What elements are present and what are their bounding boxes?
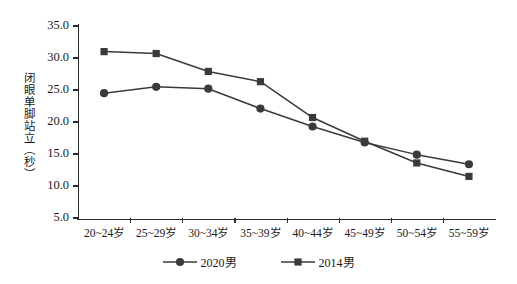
legend-square-icon — [281, 256, 315, 268]
data-point-square — [465, 173, 472, 180]
data-point-square — [413, 159, 420, 166]
line-chart: 闭眼单脚站立（秒） 35.030.025.020.015.010.05.0 20… — [0, 0, 517, 284]
data-point-circle — [204, 85, 212, 93]
data-point-circle — [308, 122, 316, 130]
data-point-square — [100, 48, 107, 55]
series-2 — [100, 48, 472, 180]
data-point-square — [153, 50, 160, 57]
data-point-square — [257, 78, 264, 85]
data-point-circle — [152, 83, 160, 91]
data-point-circle — [100, 89, 108, 97]
data-point-circle — [465, 160, 473, 168]
series-1 — [100, 83, 473, 169]
legend-label: 2020男 — [201, 253, 237, 271]
data-point-circle — [413, 151, 421, 159]
data-point-square — [205, 68, 212, 75]
series-layer — [0, 0, 517, 284]
data-point-circle — [256, 104, 264, 112]
data-point-square — [309, 114, 316, 121]
legend-item-2[interactable]: 2014男 — [281, 253, 355, 271]
legend-label: 2014男 — [319, 253, 355, 271]
legend-item-1[interactable]: 2020男 — [163, 253, 237, 271]
chart-legend: 2020男2014男 — [0, 253, 517, 271]
legend-circle-icon — [163, 256, 197, 268]
data-point-square — [361, 138, 368, 145]
